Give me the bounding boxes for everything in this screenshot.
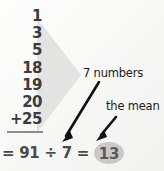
mean-calculation-diagram: 1 3 5 18 19 20 +25 = 91 ÷ 7 = 13 7 numbe… [0,0,164,171]
equals-sign-2: = [77,144,89,162]
divisor-value: 7 [62,144,72,162]
mean-highlight: 13 [96,143,122,163]
result-equation: = 91 ÷ 7 = 13 [2,143,122,163]
addend-value: 18 [2,60,42,77]
addend-value-last: +25 [2,111,42,128]
addend-value: 1 [2,8,42,25]
mean-value: 13 [99,145,119,163]
summation-rule [7,131,43,133]
arrow-to-mean-icon [96,117,116,141]
addend-value: 3 [2,25,42,42]
callout-label-count: 7 numbers [83,66,143,80]
equals-sign-1: = [2,144,14,162]
addend-value: 5 [2,42,42,59]
addend-value: 20 [2,94,42,111]
division-sign: ÷ [44,144,56,162]
addend-value: 19 [2,77,42,94]
addend-column: 1 3 5 18 19 20 +25 [2,8,42,128]
sum-value: 91 [19,144,39,162]
triangle-bracket-icon [37,18,81,133]
callout-label-mean: the mean [106,99,160,113]
